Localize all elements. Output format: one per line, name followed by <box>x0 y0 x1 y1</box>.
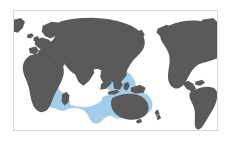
world-map-svg <box>14 11 217 130</box>
distribution-map-figure <box>0 0 232 141</box>
map-frame <box>13 10 218 131</box>
